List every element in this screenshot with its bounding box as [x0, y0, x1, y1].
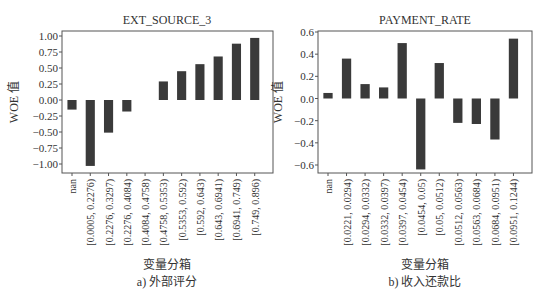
xlabel-ext-source-3: 变量分箱 [117, 255, 217, 273]
bar [214, 56, 223, 100]
y-tick-label: 0.4 [300, 48, 314, 60]
y-tick-label: 0.6 [300, 26, 314, 38]
y-tick-label: 0.00 [39, 94, 59, 106]
caption-ext-source-3: a) 外部评分 [117, 272, 217, 290]
bar [435, 63, 444, 98]
x-tick-label: [0.4758, 0.5353) [158, 179, 170, 246]
bar [509, 39, 518, 99]
y-axis-label: WOE 值 [6, 81, 21, 123]
bar [453, 99, 462, 123]
y-tick-label: −0.4 [294, 137, 314, 149]
x-tick-label: [0.592, 0.643) [195, 179, 207, 236]
x-tick-label: [0.0563, 0.0684) [471, 179, 483, 246]
y-tick-label: 0.2 [300, 70, 314, 82]
bar [177, 71, 186, 100]
y-tick-label: −0.2 [294, 115, 314, 127]
y-tick-label: 0.0 [300, 93, 314, 105]
x-tick-label: [0.0332, 0.0397) [379, 179, 391, 246]
x-tick-label: [0.643, 0.6941) [213, 179, 225, 241]
x-tick-label: [0.0454, 0.05) [416, 179, 428, 236]
y-tick-label: 0.25 [39, 78, 59, 90]
x-tick-label: [0.0397, 0.0454) [397, 179, 409, 246]
x-tick-label: [0.0005, 0.2276) [85, 179, 97, 246]
bar [416, 99, 425, 170]
bar [323, 93, 332, 99]
x-tick-label: [0.2276, 0.3297) [104, 179, 116, 246]
y-tick-label: 0.50 [39, 62, 59, 74]
bar [104, 100, 113, 133]
y-tick-label: −0.25 [33, 110, 59, 122]
x-tick-label: [0.6941, 0.749) [231, 179, 243, 241]
y-tick-label: −0.50 [33, 126, 59, 138]
bar [232, 44, 241, 100]
x-tick-label: [0.05, 0.0512) [434, 179, 446, 236]
x-tick-label: [0.0221, 0.0294) [342, 179, 354, 246]
y-tick-label: 1.00 [39, 30, 59, 42]
y-axis-label: WOE 值 [270, 81, 285, 123]
bar [159, 81, 168, 100]
bar [86, 100, 95, 166]
bar [67, 100, 76, 110]
x-tick-label: [0.0951, 0.1244) [508, 179, 520, 246]
bar [472, 99, 481, 124]
bar [398, 43, 407, 98]
bar [360, 84, 369, 98]
bar [342, 59, 351, 99]
y-tick-label: 0.75 [39, 46, 59, 58]
y-tick-label: −0.6 [294, 159, 314, 171]
bar [122, 100, 131, 112]
bar [379, 87, 388, 98]
bar [195, 64, 204, 100]
xlabel-payment-rate: 变量分箱 [375, 255, 475, 273]
x-tick-label: [0.5353, 0.592) [177, 179, 189, 241]
x-tick-label: [0.749, 0.896) [250, 179, 262, 236]
bar [490, 99, 499, 140]
x-tick-label: [0.2276, 0.4084) [122, 179, 134, 246]
x-tick-label: nan [323, 179, 334, 193]
y-tick-label: −0.75 [33, 142, 59, 154]
bar [250, 38, 259, 100]
x-tick-label: [0.4084, 0.4758) [140, 179, 152, 246]
x-tick-label: nan [67, 179, 78, 193]
caption-payment-rate: b) 收入还款比 [375, 272, 475, 290]
x-tick-label: [0.0684, 0.0951) [490, 179, 502, 246]
chart-title: PAYMENT_RATE [379, 13, 471, 27]
chart-title: EXT_SOURCE_3 [123, 13, 212, 27]
x-tick-label: [0.0512, 0.0563) [453, 179, 465, 246]
y-tick-label: −1.00 [33, 158, 59, 170]
x-tick-label: [0.0294, 0.0332) [360, 179, 372, 246]
